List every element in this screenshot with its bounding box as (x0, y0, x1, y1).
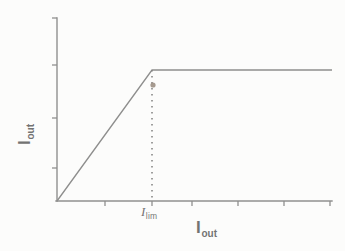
knee-point-marker (150, 82, 155, 87)
ilim-annotation-subscript: lim (146, 211, 157, 221)
plot-area (0, 0, 345, 251)
ilim-annotation: Ilim (141, 203, 157, 219)
y-axis-ticks (52, 18, 57, 168)
y-axis-label-base: I (15, 140, 34, 145)
x-axis-label: Iout (196, 219, 216, 236)
y-axis-label-subscript: out (25, 124, 36, 140)
curve-ramp-and-plateau (57, 70, 332, 201)
data-series-limiting-curve (57, 70, 332, 201)
x-axis-ticks (105, 201, 330, 206)
figure-canvas: Iout Iout Ilim (0, 0, 345, 251)
ilim-annotation-base: I (141, 204, 145, 219)
axis-lines (56, 18, 332, 201)
x-axis-label-subscript: out (201, 228, 217, 239)
y-axis-label: Iout (16, 125, 33, 145)
